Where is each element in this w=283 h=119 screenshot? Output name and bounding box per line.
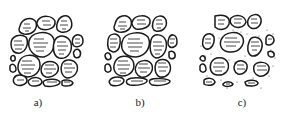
panel-label-b: b) [93,96,187,108]
packing-diagram-a [0,0,94,95]
panel-a: a) [0,0,94,119]
packing-diagram-c [189,0,283,95]
panel-label-a: a) [0,96,85,108]
packing-diagram-b [95,0,189,95]
panel-c: c) [189,0,283,119]
panel-b: b) [95,0,189,119]
panel-label-c: c) [195,96,283,108]
